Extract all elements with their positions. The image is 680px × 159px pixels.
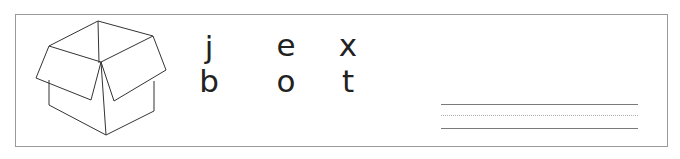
letter-row2-col1: b bbox=[194, 66, 224, 97]
letter-row2-col3: t bbox=[333, 66, 363, 97]
writing-line-top bbox=[441, 104, 638, 105]
letter-row2-col2: o bbox=[271, 66, 301, 97]
letter-row1-col2: e bbox=[271, 30, 301, 61]
writing-line-middle bbox=[441, 115, 638, 116]
open-box-icon bbox=[34, 18, 174, 138]
letter-row1-col3: x bbox=[333, 30, 363, 61]
handwriting-lines bbox=[441, 103, 638, 131]
letter-row1-col1: j bbox=[194, 32, 224, 63]
writing-line-bottom bbox=[441, 128, 638, 129]
